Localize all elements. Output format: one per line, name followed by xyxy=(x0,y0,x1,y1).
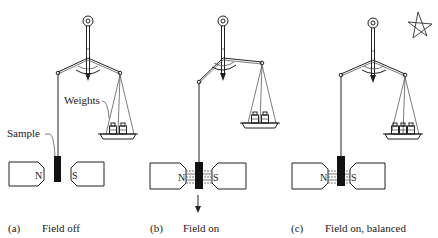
balance-a xyxy=(56,16,138,158)
panel-b: N S (b) Field on xyxy=(150,16,280,235)
balance-b xyxy=(197,16,280,163)
sample xyxy=(195,162,203,189)
sample-label: Sample xyxy=(7,127,40,139)
north-pole-label: N xyxy=(178,172,185,183)
panel-a-caption: Field off xyxy=(42,222,80,234)
beam-right xyxy=(88,58,120,72)
panel-c: N S (c) Field on, balanced xyxy=(291,18,423,235)
panel-b-marker: (b) xyxy=(150,222,163,235)
balance-c xyxy=(339,18,423,158)
down-arrow-icon xyxy=(195,206,201,213)
star-doodle-icon xyxy=(408,12,432,38)
weights-leader xyxy=(102,101,109,118)
beam-right xyxy=(373,60,405,74)
south-pole-label: S xyxy=(213,172,219,183)
panel-c-marker: (c) xyxy=(291,222,304,235)
beam-left xyxy=(341,60,373,74)
north-pole-label: N xyxy=(320,172,327,183)
sample-leader xyxy=(45,134,55,156)
beam-left xyxy=(58,58,88,72)
south-pole-label: S xyxy=(351,172,357,183)
panel-c-caption: Field on, balanced xyxy=(325,222,406,234)
weights-label: Weights xyxy=(64,94,100,106)
beam-right xyxy=(223,58,262,62)
sample xyxy=(337,156,345,186)
panel-a-marker: (a) xyxy=(8,222,21,235)
sample xyxy=(54,156,61,182)
panel-a: Weights Sample N S (a) Field off xyxy=(7,16,138,235)
panel-b-caption: Field on xyxy=(183,222,220,234)
south-pole-label: S xyxy=(72,170,78,181)
north-pole-label: N xyxy=(35,170,42,181)
gouy-balance-diagram: Weights Sample N S (a) Field off xyxy=(0,0,438,238)
